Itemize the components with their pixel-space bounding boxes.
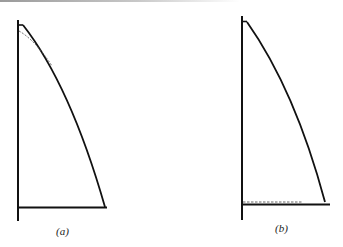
diagram-canvas: (a) (b): [0, 0, 343, 247]
panel-a-label: (a): [56, 225, 69, 238]
panel-b-curve: [247, 22, 325, 202]
panel-b: (b): [242, 16, 330, 235]
panel-a: (a): [18, 20, 107, 238]
panel-b-label: (b): [275, 222, 288, 235]
panel-a-curve: [23, 25, 105, 207]
